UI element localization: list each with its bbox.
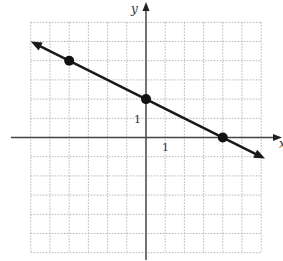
x-axis-label: x bbox=[279, 137, 283, 151]
y-unit-label: 1 bbox=[134, 113, 141, 126]
x-unit-label: 1 bbox=[162, 141, 169, 154]
data-point bbox=[141, 94, 151, 104]
data-point bbox=[218, 133, 228, 143]
y-axis-label: y bbox=[130, 2, 138, 16]
y-axis-arrow-icon bbox=[143, 2, 150, 11]
plotted-line bbox=[31, 42, 265, 159]
data-point bbox=[64, 56, 74, 66]
coordinate-graph: y x 1 1 bbox=[0, 0, 283, 261]
